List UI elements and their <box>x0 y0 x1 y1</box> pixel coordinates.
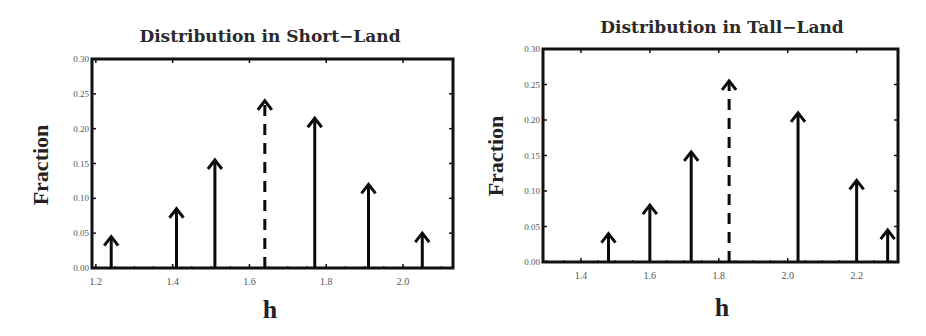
y-tick-label: 0.15 <box>524 151 540 161</box>
chart-panel-1: Distribution in Short−Land0.000.050.100.… <box>28 26 453 324</box>
x-axis-label: h <box>715 293 730 322</box>
plot-frame <box>543 49 898 262</box>
x-tick-label: 1.2 <box>90 276 103 287</box>
y-axis-label: Fraction <box>28 125 53 206</box>
x-tick-label: 1.4 <box>166 276 179 287</box>
plot-frame <box>92 59 453 268</box>
y-tick-label: 0.30 <box>524 44 540 54</box>
x-tick-label: 1.8 <box>713 270 726 281</box>
figure: Distribution in Short−Land0.000.050.100.… <box>0 0 926 336</box>
y-tick-label: 0.00 <box>524 257 540 267</box>
x-tick-label: 1.4 <box>575 270 588 281</box>
chart-title: Distribution in Short−Land <box>139 26 400 46</box>
y-tick-label: 0.25 <box>524 80 540 90</box>
y-tick-label: 0.30 <box>73 54 89 64</box>
chart-panel-2: Distribution in Tall−Land0.000.050.100.1… <box>483 17 898 322</box>
y-tick-label: 0.00 <box>73 263 89 273</box>
x-tick-label: 2.0 <box>397 276 410 287</box>
chart-canvas: Distribution in Short−Land0.000.050.100.… <box>0 0 926 336</box>
y-tick-label: 0.20 <box>73 124 89 134</box>
x-tick-label: 2.0 <box>781 270 794 281</box>
y-axis-label: Fraction <box>483 116 508 197</box>
y-tick-label: 0.25 <box>73 89 89 99</box>
y-tick-label: 0.15 <box>73 159 89 169</box>
x-axis-label: h <box>263 295 278 324</box>
y-tick-label: 0.20 <box>524 115 540 125</box>
y-tick-label: 0.05 <box>524 222 540 232</box>
x-tick-label: 2.2 <box>850 270 863 281</box>
x-tick-label: 1.6 <box>644 270 657 281</box>
y-tick-label: 0.05 <box>73 228 89 238</box>
y-tick-label: 0.10 <box>73 193 89 203</box>
y-tick-label: 0.10 <box>524 186 540 196</box>
x-tick-label: 1.8 <box>320 276 333 287</box>
x-tick-label: 1.6 <box>243 276 256 287</box>
chart-title: Distribution in Tall−Land <box>600 17 843 37</box>
